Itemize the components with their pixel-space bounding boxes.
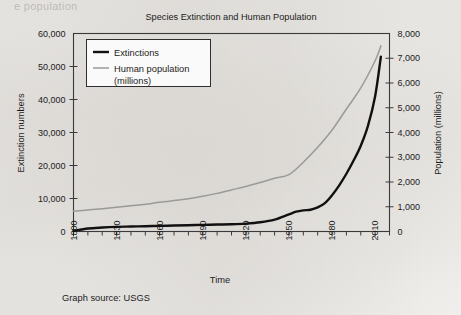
y-tick-label: 50,000 xyxy=(38,62,66,72)
x-tick-label: 1980 xyxy=(327,220,337,240)
legend-label-extinctions: Extinctions xyxy=(114,48,159,58)
y2-tick-label: 1,000 xyxy=(398,202,421,212)
y-tick-label: 10,000 xyxy=(38,194,66,204)
y-tick-label: 40,000 xyxy=(38,95,66,105)
legend-label-human-population: Human population xyxy=(114,64,189,74)
y2-tick-label: 6,000 xyxy=(398,78,421,88)
graph-source-note: Graph source: USGS xyxy=(62,293,150,303)
y2-tick-label: 2,000 xyxy=(398,177,421,187)
y-axis-right-tick-labels: 01,0002,0003,0004,0005,0006,0007,0008,00… xyxy=(398,29,421,237)
y2-tick-label: 0 xyxy=(398,227,403,237)
y-tick-label: 60,000 xyxy=(38,29,66,39)
y-axis-left-label: Extinction numbers xyxy=(16,93,26,172)
x-tick-label: 2010 xyxy=(370,220,380,240)
y-tick-label: 0 xyxy=(60,227,65,237)
legend-label-human-population-units: (millions) xyxy=(114,76,151,86)
y2-tick-label: 7,000 xyxy=(398,53,421,63)
x-tick-label: 1830 xyxy=(112,220,122,240)
y2-tick-label: 3,000 xyxy=(398,152,421,162)
y2-tick-label: 5,000 xyxy=(398,103,421,113)
line-chart: Species Extinction and Human Population … xyxy=(0,0,461,315)
x-tick-label: 1950 xyxy=(284,220,294,240)
chart-figure: Species Extinction and Human Population … xyxy=(0,0,461,315)
chart-title: Species Extinction and Human Population xyxy=(145,12,316,22)
x-tick-label: 1890 xyxy=(198,220,208,240)
y2-tick-label: 8,000 xyxy=(398,29,421,39)
chart-legend: Extinctions Human population (millions) xyxy=(87,40,211,87)
x-axis-label: Time xyxy=(210,275,230,285)
y-tick-label: 20,000 xyxy=(38,161,66,171)
y-axis-right-label: Population (millions) xyxy=(433,91,443,175)
y-tick-label: 30,000 xyxy=(38,128,66,138)
x-tick-label: 1860 xyxy=(155,220,165,240)
y-axis-left-tick-labels: 010,00020,00030,00040,00050,00060,000 xyxy=(38,29,66,237)
y2-tick-label: 4,000 xyxy=(398,128,421,138)
